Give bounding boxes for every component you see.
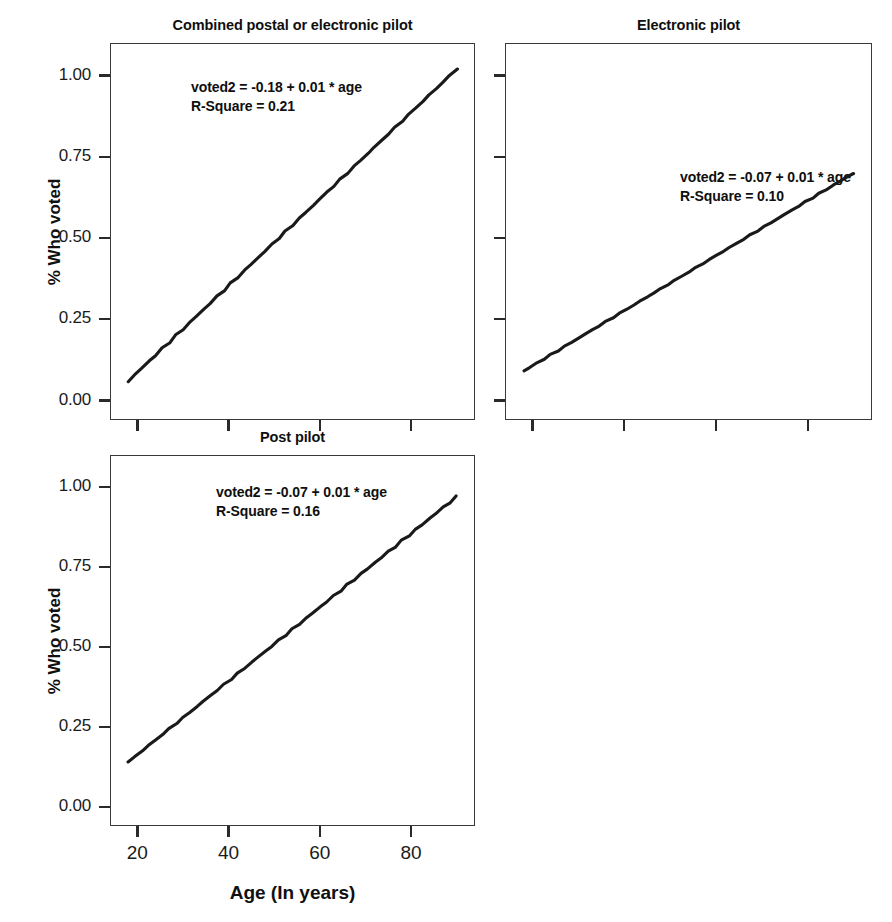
- x-tick-post-pilot-3: [410, 826, 412, 837]
- y-tick-label-post-pilot-0: 0.00: [15, 796, 91, 816]
- y-tick-post-pilot-4: [99, 486, 110, 488]
- y-tick-post-pilot-3: [99, 566, 110, 568]
- x-tick-label-post-pilot-0: 20: [97, 842, 177, 864]
- y-tick-label-post-pilot-4: 1.00: [15, 476, 91, 496]
- x-tick-label-post-pilot-1: 40: [189, 842, 269, 864]
- regression-equation-post-pilot: voted2 = -0.07 + 0.01 * age: [216, 483, 387, 502]
- x-axis-title-post-pilot: Age (In years): [110, 882, 475, 904]
- regression-panel-figure: Combined postal or electronic pilot0.000…: [0, 0, 892, 922]
- x-tick-post-pilot-0: [136, 826, 138, 837]
- y-tick-post-pilot-2: [99, 646, 110, 648]
- panel-post-pilot: Post pilot0.000.250.500.751.0020406080% …: [0, 0, 892, 922]
- y-axis-title-post-pilot: % Who voted: [45, 541, 65, 741]
- annotation-post-pilot: voted2 = -0.07 + 0.01 * ageR-Square = 0.…: [216, 483, 387, 522]
- x-tick-post-pilot-1: [227, 826, 229, 837]
- x-tick-label-post-pilot-3: 80: [371, 842, 451, 864]
- panel-title-post-pilot: Post pilot: [110, 429, 475, 445]
- y-tick-post-pilot-1: [99, 726, 110, 728]
- r-square-post-pilot: R-Square = 0.16: [216, 502, 387, 521]
- y-tick-post-pilot-0: [99, 806, 110, 808]
- x-tick-post-pilot-2: [319, 826, 321, 837]
- x-tick-label-post-pilot-2: 60: [280, 842, 360, 864]
